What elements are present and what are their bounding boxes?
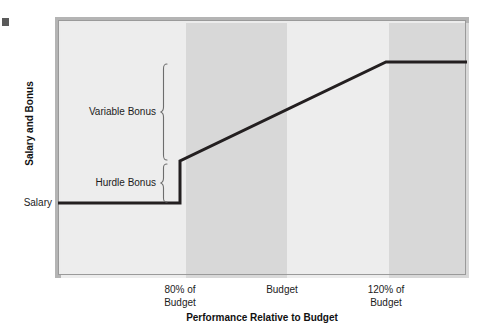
plot-inner — [61, 23, 469, 278]
annotation-variable-bonus: Variable Bonus — [60, 106, 156, 117]
x-tick-80-percent-line1: 80% of — [143, 284, 217, 297]
y-axis-title: Salary and Bonus — [24, 69, 35, 179]
registration-mark — [2, 18, 9, 26]
x-tick-budget: Budget — [245, 284, 319, 297]
y-tick-label-salary: Salary — [8, 197, 52, 208]
x-tick-80-percent-line2: Budget — [143, 297, 217, 310]
band-below-hurdle — [61, 23, 186, 278]
plot-area — [55, 17, 469, 278]
x-tick-120-percent: 120% of Budget — [349, 284, 423, 309]
band-above-cap — [389, 23, 469, 278]
x-tick-80-percent: 80% of Budget — [143, 284, 217, 309]
x-tick-120-percent-line2: Budget — [349, 297, 423, 310]
x-tick-budget-line1: Budget — [245, 284, 319, 297]
band-mid-to-upper — [287, 23, 389, 278]
band-hurdle-to-mid — [186, 23, 287, 278]
annotation-hurdle-bonus: Hurdle Bonus — [60, 177, 156, 188]
x-axis-title: Performance Relative to Budget — [55, 312, 469, 323]
x-tick-120-percent-line1: 120% of — [349, 284, 423, 297]
chart-figure: Salary and Bonus Performance Relative to… — [0, 0, 493, 335]
